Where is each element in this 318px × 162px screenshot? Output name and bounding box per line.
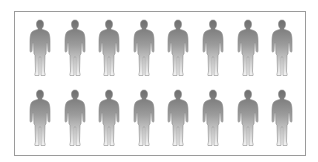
person-silhouette-icon: [96, 19, 122, 77]
person-silhouette-icon: [27, 89, 53, 147]
person-silhouette-icon: [235, 19, 261, 77]
person-silhouette-icon: [62, 89, 88, 147]
figure-row-2: [15, 89, 305, 147]
person-silhouette-icon: [165, 19, 191, 77]
person-silhouette-icon: [131, 89, 157, 147]
person-silhouette-icon: [200, 89, 226, 147]
person-silhouette-icon: [131, 19, 157, 77]
person-silhouette-icon: [27, 19, 53, 77]
person-silhouette-icon: [269, 89, 295, 147]
person-silhouette-icon: [96, 89, 122, 147]
figure-grid-frame: [14, 11, 306, 156]
person-silhouette-icon: [62, 19, 88, 77]
figure-row-1: [15, 19, 305, 77]
person-silhouette-icon: [269, 19, 295, 77]
person-silhouette-icon: [235, 89, 261, 147]
person-silhouette-icon: [165, 89, 191, 147]
person-silhouette-icon: [200, 19, 226, 77]
